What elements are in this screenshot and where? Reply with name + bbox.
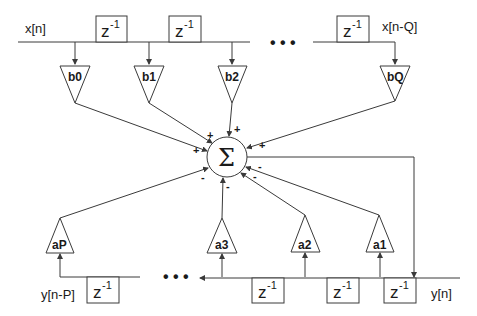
svg-text:z: z <box>333 283 342 302</box>
gain-ap: aP <box>46 218 74 253</box>
delay-block-top-q: z -1 <box>337 16 369 42</box>
svg-text:a2: a2 <box>298 238 312 252</box>
sign-ap: - <box>201 171 205 183</box>
svg-text:-1: -1 <box>352 18 362 30</box>
gain-b2: b2 <box>218 66 247 103</box>
delay-block-bottom-1: z -1 <box>384 278 416 303</box>
output-label: y[n] <box>431 286 452 301</box>
summing-junction: Σ <box>207 137 247 177</box>
sign-a2: - <box>253 170 257 182</box>
svg-text:aP: aP <box>52 238 67 252</box>
svg-text:-1: -1 <box>399 279 409 291</box>
svg-text:z: z <box>93 283 102 302</box>
delay-block-top-1: z -1 <box>96 16 127 42</box>
sign-a3: - <box>226 180 230 192</box>
gain-b1: b1 <box>134 66 164 103</box>
iir-filter-diagram: x[n] x[n-Q] • • • z -1 z -1 z -1 b0 b1 b… <box>0 0 477 316</box>
svg-text:b0: b0 <box>68 70 82 84</box>
svg-text:-1: -1 <box>110 18 120 30</box>
gain-b0: b0 <box>60 66 90 103</box>
svg-text:-1: -1 <box>267 279 277 291</box>
svg-text:-1: -1 <box>342 279 352 291</box>
svg-text:Σ: Σ <box>218 144 235 172</box>
svg-text:z: z <box>343 22 352 41</box>
svg-text:b1: b1 <box>142 70 156 84</box>
gain-a2: a2 <box>291 215 320 252</box>
svg-text:z: z <box>390 283 399 302</box>
svg-text:a1: a1 <box>373 238 387 252</box>
output-delayed-label: y[n-P] <box>41 287 75 302</box>
sign-b1: + <box>207 129 213 141</box>
svg-text:a3: a3 <box>215 238 229 252</box>
svg-text:z: z <box>101 22 110 41</box>
delay-block-bottom-p: z -1 <box>87 277 119 303</box>
output-ellipsis: • • • <box>163 268 189 285</box>
svg-text:z: z <box>258 283 267 302</box>
input-ellipsis: • • • <box>270 34 296 51</box>
sign-a1: - <box>258 160 262 172</box>
sign-b2: + <box>234 123 240 135</box>
gain-bq: bQ <box>380 66 410 101</box>
svg-text:bQ: bQ <box>387 70 404 84</box>
svg-text:-1: -1 <box>102 279 112 291</box>
gain-a1: a1 <box>366 215 394 252</box>
svg-text:z: z <box>175 22 184 41</box>
sign-bq: + <box>259 139 265 151</box>
svg-text:-1: -1 <box>184 18 194 30</box>
sign-b0: + <box>193 144 199 156</box>
delay-block-top-2: z -1 <box>169 16 201 42</box>
delay-block-bottom-3: z -1 <box>252 278 284 303</box>
svg-text:b2: b2 <box>225 70 239 84</box>
gain-a3: a3 <box>207 218 237 253</box>
input-label: x[n] <box>25 21 46 36</box>
delay-block-bottom-2: z -1 <box>327 278 359 303</box>
input-delayed-label: x[n-Q] <box>382 19 417 34</box>
